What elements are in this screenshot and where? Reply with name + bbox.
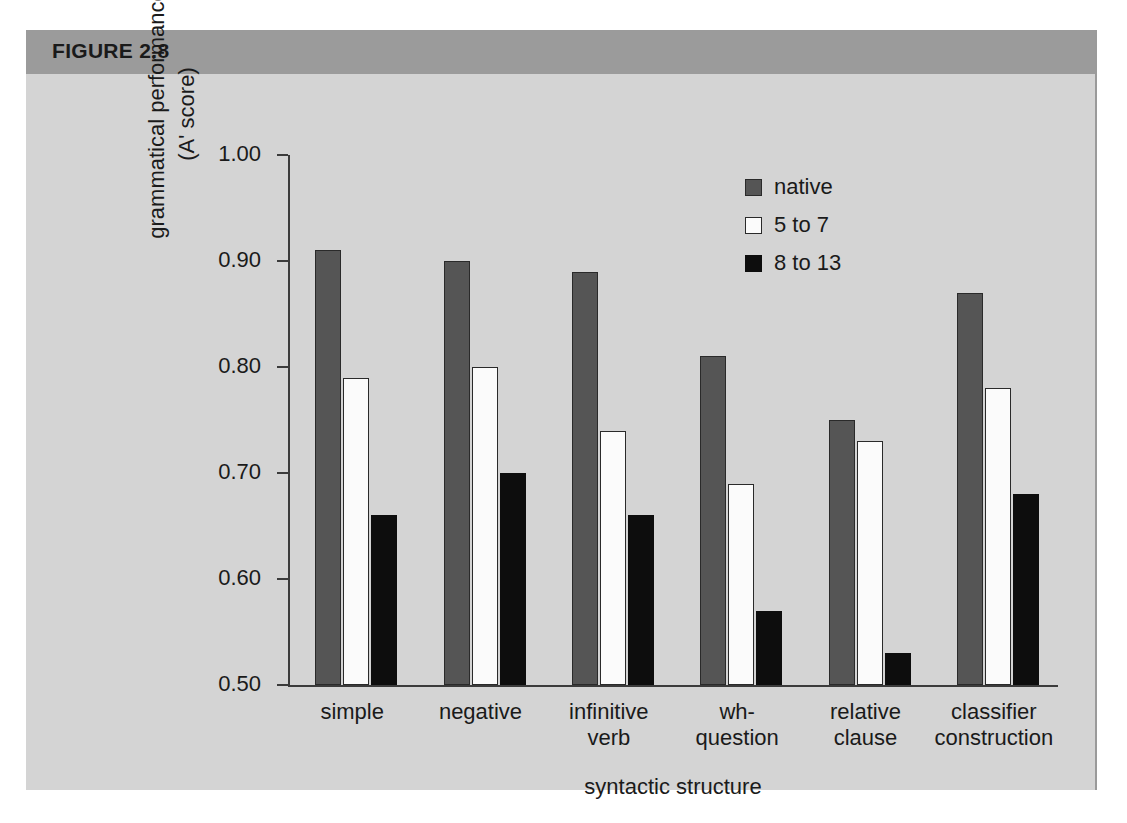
y-tick-1.00: 1.00: [277, 154, 288, 156]
legend-item-native: native: [745, 168, 841, 206]
bar-8-to-13-relative-clause: [885, 653, 911, 685]
y-tick-label: 0.50: [218, 671, 261, 697]
bar-5-to-7-negative: [472, 367, 498, 685]
legend-label: 5 to 7: [774, 212, 829, 238]
bar-5-to-7-classifier-construction: [985, 388, 1011, 685]
legend-swatch-icon: [745, 255, 762, 272]
y-axis-line: [288, 155, 290, 685]
bar-native-negative: [444, 261, 470, 685]
bar-native-classifier-construction: [957, 293, 983, 685]
category-label-simple: simple: [278, 699, 426, 725]
chart-legend: native5 to 78 to 13: [745, 168, 841, 282]
bar-8-to-13-wh--question: [756, 611, 782, 685]
y-tick-0.70: 0.70: [277, 472, 288, 474]
bar-8-to-13-infinitive-verb: [628, 515, 654, 685]
y-tick-label: 1.00: [218, 141, 261, 167]
category-label-classifier-construction: classifierconstruction: [920, 699, 1068, 751]
bar-8-to-13-negative: [500, 473, 526, 685]
bar-native-simple: [315, 250, 341, 685]
legend-item-8-to-13: 8 to 13: [745, 244, 841, 282]
plot-area: 1.000.900.800.700.600.50 simplenegativei…: [288, 155, 1058, 685]
figure-container: FIGURE 2.8 1.000.900.800.700.600.50 simp…: [26, 30, 1097, 790]
legend-item-5-to-7: 5 to 7: [745, 206, 841, 244]
category-label-line: relative: [791, 699, 939, 725]
bar-8-to-13-classifier-construction: [1013, 494, 1039, 685]
y-tick-0.50: 0.50: [277, 684, 288, 686]
category-label-line: classifier: [920, 699, 1068, 725]
bar-5-to-7-relative-clause: [857, 441, 883, 685]
category-label-line: construction: [920, 725, 1068, 751]
legend-label: native: [774, 174, 833, 200]
y-tick-0.90: 0.90: [277, 260, 288, 262]
y-tick-label: 0.70: [218, 459, 261, 485]
x-axis-title: syntactic structure: [288, 774, 1058, 800]
category-label-line: clause: [791, 725, 939, 751]
bar-native-infinitive-verb: [572, 272, 598, 685]
category-label-wh--question: wh-question: [663, 699, 811, 751]
x-axis-line: [288, 685, 1058, 687]
y-tick-0.60: 0.60: [277, 578, 288, 580]
category-label-infinitive-verb: infinitiveverb: [535, 699, 683, 751]
legend-swatch-icon: [745, 179, 762, 196]
category-label-line: simple: [278, 699, 426, 725]
category-label-line: infinitive: [535, 699, 683, 725]
bar-5-to-7-infinitive-verb: [600, 431, 626, 685]
category-label-line: verb: [535, 725, 683, 751]
bar-5-to-7-wh--question: [728, 484, 754, 685]
legend-swatch-icon: [745, 217, 762, 234]
y-tick-label: 0.90: [218, 247, 261, 273]
category-label-line: negative: [406, 699, 554, 725]
category-label-relative-clause: relativeclause: [791, 699, 939, 751]
y-tick-label: 0.60: [218, 565, 261, 591]
y-axis-title: grammatical performance (A' score): [142, 0, 201, 279]
y-axis-title-line1: grammatical performance: [142, 0, 172, 279]
legend-label: 8 to 13: [774, 250, 841, 276]
bar-8-to-13-simple: [371, 515, 397, 685]
chart-canvas: 1.000.900.800.700.600.50 simplenegativei…: [26, 74, 1095, 790]
y-tick-0.80: 0.80: [277, 366, 288, 368]
y-axis-title-line2: (A' score): [172, 0, 202, 279]
bar-5-to-7-simple: [343, 378, 369, 685]
category-label-line: question: [663, 725, 811, 751]
y-tick-label: 0.80: [218, 353, 261, 379]
bar-native-relative-clause: [829, 420, 855, 685]
category-label-line: wh-: [663, 699, 811, 725]
category-label-negative: negative: [406, 699, 554, 725]
bar-native-wh--question: [700, 356, 726, 685]
